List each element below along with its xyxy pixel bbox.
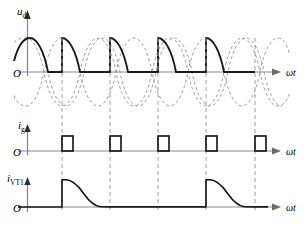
ig-gate-pulses: [62, 136, 266, 151]
ivt1-axis-arrow: [272, 204, 281, 211]
gate-pulse-5: [255, 136, 266, 151]
ig-value-axis-arrow: [24, 124, 30, 132]
ig-y-label: ig: [18, 119, 25, 134]
ud-waveform: [14, 38, 255, 72]
ivt1-waveform: [18, 180, 268, 207]
ud-y-label-sub: d: [23, 11, 27, 20]
ud-axis-arrow: [272, 69, 281, 76]
ig-x-label: ωt: [286, 146, 296, 157]
gate-pulse-1: [62, 136, 73, 151]
gate-pulse-3: [158, 136, 169, 151]
ud-x-label: ωt: [286, 67, 296, 78]
ig-origin-label: O: [13, 146, 21, 158]
ivt1-y-label-sub: VT1: [10, 178, 24, 187]
gate-pulse-4: [206, 136, 217, 151]
panel-ig: ig O ωt: [13, 119, 296, 158]
waveform-figure: ud O ωt i: [0, 0, 308, 233]
ivt1-y-label: iVT1: [7, 172, 24, 187]
ivt1-origin-label: O: [13, 202, 21, 214]
ig-axis-arrow: [272, 148, 281, 155]
gate-pulse-2: [110, 136, 121, 151]
ud-y-label: ud: [17, 5, 27, 20]
ivt1-value-axis-arrow: [24, 177, 30, 185]
panel-ud: ud O ωt: [13, 5, 296, 106]
ig-y-label-sub: g: [21, 125, 25, 134]
ivt1-x-label: ωt: [286, 202, 296, 213]
waveform-svg: ud O ωt i: [0, 0, 308, 233]
panel-ivt1: iVT1 O ωt: [7, 172, 296, 214]
ud-origin-label: O: [13, 67, 21, 79]
